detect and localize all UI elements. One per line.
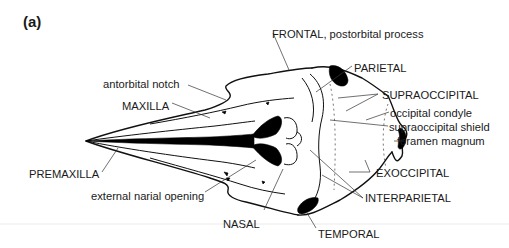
label-occipital-condyle: occipital condyle [390,107,472,119]
label-external-narial-opening: external narial opening [91,190,204,202]
label-exoccipital: EXOCCIPITAL [376,167,449,179]
label-supraoccipital: SUPRAOCCIPITAL [382,89,479,101]
label-temporal: TEMPORAL [318,228,380,240]
label-frontal: FRONTAL, postorbital process [272,28,424,40]
label-supraoccipital-shield: supraoccipital shield [389,121,490,133]
label-premaxilla: PREMAXILLA [29,168,100,180]
label-maxilla: MAXILLA [122,100,170,112]
panel-label: (a) [23,13,41,30]
label-foramen-magnum: foramen magnum [397,135,485,147]
label-parietal: PARIETAL [354,62,406,74]
label-interparietal: INTERPARIETAL [365,192,451,204]
label-antorbital-notch: antorbital notch [103,78,180,90]
label-nasal: NASAL [223,218,260,230]
skull-diagram: (a) [0,0,509,248]
